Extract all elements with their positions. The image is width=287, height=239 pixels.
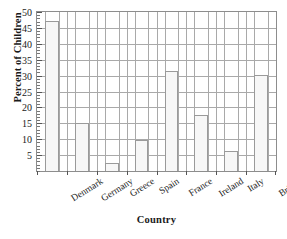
y-tick-label: 25 <box>10 86 32 97</box>
y-tick-minor <box>37 15 40 16</box>
y-tick-major <box>37 60 42 61</box>
x-tick <box>97 171 98 175</box>
y-tick-label: 5 <box>10 150 32 161</box>
y-tick-minor <box>37 126 40 127</box>
y-tick-major <box>37 107 42 108</box>
y-tick-minor <box>37 66 40 67</box>
y-tick-minor <box>37 158 40 159</box>
y-tick-minor <box>37 50 40 51</box>
gridline-vertical-bar-edge <box>268 12 269 171</box>
x-axis-label-france: France <box>187 176 214 198</box>
y-tick-minor <box>37 168 40 169</box>
y-tick-minor <box>37 41 40 42</box>
x-axis-label-denmark: Denmark <box>69 176 104 203</box>
y-tick-label: 10 <box>10 134 32 145</box>
x-tick <box>275 171 276 175</box>
gridline-vertical-bar-edge <box>208 12 209 171</box>
y-tick-minor <box>37 101 40 102</box>
bar-chart-figure: Percent of Children 5101520253035404550 … <box>0 0 287 239</box>
x-axis-label-ireland: Ireland <box>217 176 245 199</box>
bar-italy <box>224 151 238 171</box>
y-tick-minor <box>37 114 40 115</box>
gridline-vertical-bar-edge <box>148 12 149 171</box>
gridline-vertical-bar-edge <box>105 12 106 171</box>
x-axis-label-italy: Italy <box>246 176 266 194</box>
y-tick-major <box>37 92 42 93</box>
y-tick-minor <box>37 53 40 54</box>
gridline-vertical <box>216 12 217 171</box>
gridline-vertical-bar-edge <box>238 12 239 171</box>
x-tick <box>127 171 128 175</box>
y-tick-minor <box>37 25 40 26</box>
gridline-vertical <box>246 12 247 171</box>
y-tick-minor <box>37 31 40 32</box>
y-tick-minor <box>37 37 40 38</box>
gridline-vertical-bar-edge <box>89 12 90 171</box>
y-tick-minor <box>37 136 40 137</box>
gridline-vertical <box>97 12 98 171</box>
gridline-vertical <box>157 12 158 171</box>
x-tick <box>216 171 217 175</box>
y-tick-minor <box>37 22 40 23</box>
y-tick-minor <box>37 82 40 83</box>
y-tick-label: 15 <box>10 118 32 129</box>
y-tick-minor <box>37 104 40 105</box>
bar-denmark <box>45 21 59 171</box>
y-tick-minor <box>37 63 40 64</box>
y-tick-minor <box>37 161 40 162</box>
y-tick-major <box>37 12 42 13</box>
y-tick-minor <box>37 88 40 89</box>
y-tick-minor <box>37 95 40 96</box>
bar-france <box>165 71 179 171</box>
gridline-vertical-bar-edge <box>178 12 179 171</box>
x-axis-label-spain: Spain <box>157 176 181 196</box>
y-tick-minor <box>37 85 40 86</box>
y-tick-label: 40 <box>10 38 32 49</box>
gridline-vertical-bar-edge <box>119 12 120 171</box>
y-tick-minor <box>37 72 40 73</box>
y-tick-major <box>37 155 42 156</box>
y-tick-minor <box>37 149 40 150</box>
y-tick-minor <box>37 57 40 58</box>
y-tick-minor <box>37 34 40 35</box>
gridline-vertical-bar-edge <box>59 12 60 171</box>
y-tick-label: 50 <box>10 7 32 18</box>
y-tick-label: 20 <box>10 102 32 113</box>
plot-area: 5101520253035404550 <box>36 11 277 172</box>
x-tick <box>67 171 68 175</box>
y-tick-label: 45 <box>10 22 32 33</box>
y-tick-minor <box>37 47 40 48</box>
y-tick-major <box>37 139 42 140</box>
y-tick-minor <box>37 18 40 19</box>
y-tick-minor <box>37 130 40 131</box>
x-tick <box>157 171 158 175</box>
y-tick-minor <box>37 79 40 80</box>
gridline-vertical <box>127 12 128 171</box>
y-tick-minor <box>37 111 40 112</box>
y-tick-minor <box>37 98 40 99</box>
bar-spain <box>135 140 149 171</box>
x-tick <box>186 171 187 175</box>
bar-ireland <box>194 115 208 171</box>
x-tick <box>37 171 38 175</box>
y-tick-minor <box>37 142 40 143</box>
y-tick-minor <box>37 120 40 121</box>
bar-greece <box>105 163 119 171</box>
y-tick-major <box>37 28 42 29</box>
gridline-vertical <box>186 12 187 171</box>
y-tick-minor <box>37 69 40 70</box>
y-tick-minor <box>37 152 40 153</box>
x-tick <box>246 171 247 175</box>
y-tick-major <box>37 44 42 45</box>
y-tick-label: 30 <box>10 70 32 81</box>
bar-germany <box>75 123 89 171</box>
x-axis-label-britain: Britain <box>277 176 287 198</box>
y-tick-major <box>37 123 42 124</box>
gridline-vertical <box>67 12 68 171</box>
y-tick-label: 35 <box>10 54 32 65</box>
bar-britain <box>254 75 268 171</box>
y-tick-minor <box>37 133 40 134</box>
y-tick-minor <box>37 165 40 166</box>
y-tick-major <box>37 76 42 77</box>
gridline-vertical-bar-edge <box>224 12 225 171</box>
